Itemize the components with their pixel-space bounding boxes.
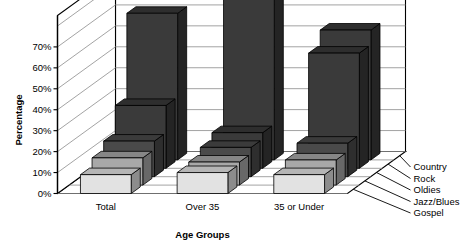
- svg-text:0%: 0%: [38, 188, 52, 199]
- bar-top-Jazz/Blues-1: [189, 156, 249, 163]
- svg-text:Oldies: Oldies: [414, 184, 441, 195]
- bar-top-Rock-2: [309, 47, 369, 54]
- bar-front-Gospel-1: [177, 173, 228, 194]
- bar-side-Rock-1: [263, 126, 272, 168]
- bar-top-Oldies-0: [104, 135, 164, 142]
- svg-text:10%: 10%: [32, 167, 52, 178]
- bar-front-Gospel-0: [80, 175, 131, 194]
- legend-leader-0: [400, 156, 411, 167]
- bar-top-Rock-0: [115, 99, 175, 106]
- svg-text:Country: Country: [414, 161, 448, 172]
- bar-top-Jazz/Blues-0: [92, 151, 152, 158]
- bar-front-Gospel-2: [274, 175, 325, 194]
- svg-text:Total: Total: [96, 201, 116, 212]
- svg-text:60%: 60%: [32, 62, 52, 73]
- svg-text:Age Groups: Age Groups: [175, 229, 229, 240]
- bar-chart-3d: 0%10%20%30%40%50%60%70%TotalOver 3535 or…: [0, 0, 473, 244]
- svg-text:Gospel: Gospel: [414, 207, 444, 218]
- bar-side-Country-0: [178, 7, 187, 160]
- bar-side-Oldies-0: [154, 135, 163, 177]
- bar-top-Oldies-2: [297, 137, 357, 144]
- legend-leader-1: [388, 164, 410, 178]
- legend-leader-4: [353, 189, 410, 213]
- bar-top-Gospel-2: [274, 168, 334, 175]
- bar-side-Rock-0: [166, 99, 175, 168]
- bar-top-Country-0: [127, 7, 187, 14]
- svg-text:70%: 70%: [32, 41, 52, 52]
- svg-text:20%: 20%: [32, 146, 52, 157]
- svg-text:35 or Under: 35 or Under: [274, 201, 324, 212]
- svg-text:Jazz/Blues: Jazz/Blues: [414, 196, 460, 207]
- bar-top-Gospel-0: [80, 168, 140, 175]
- svg-text:Percentage: Percentage: [13, 94, 24, 145]
- svg-text:50%: 50%: [32, 83, 52, 94]
- chart-container: 0%10%20%30%40%50%60%70%TotalOver 3535 or…: [0, 0, 473, 244]
- bar-top-Rock-1: [212, 126, 272, 133]
- bar-top-Oldies-1: [200, 141, 260, 148]
- svg-text:30%: 30%: [32, 125, 52, 136]
- bar-side-Rock-2: [359, 47, 368, 169]
- svg-text:40%: 40%: [32, 104, 52, 115]
- bar-top-Country-2: [320, 24, 380, 31]
- bar-side-Country-2: [371, 24, 380, 160]
- legend-leader-3: [365, 181, 411, 202]
- bar-top-Jazz/Blues-2: [285, 153, 345, 160]
- svg-text:Over 35: Over 35: [186, 201, 220, 212]
- bar-top-Gospel-1: [177, 166, 237, 173]
- bar-side-Country-1: [274, 0, 283, 160]
- svg-text:Rock: Rock: [414, 173, 436, 184]
